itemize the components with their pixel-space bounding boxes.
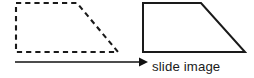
projection-arrow-head-icon [139,58,148,67]
caption-slide-image: slide image [152,59,220,74]
figure-container: slide image [0,0,254,78]
diagram-canvas: slide image [0,0,254,78]
dashed-trapezoid-slide [16,3,118,52]
solid-trapezoid-image [143,3,245,52]
